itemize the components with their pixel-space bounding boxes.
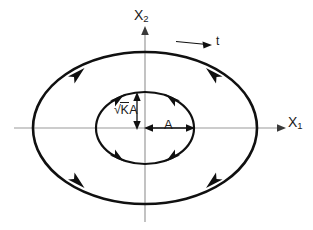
flow-arrow-inner-upper-right: [166, 95, 180, 107]
x1-axis-label: X1: [288, 115, 303, 131]
x1-axis-label-text: X: [288, 114, 297, 130]
flow-arrow-inner-lower-left: [110, 150, 124, 162]
velocity-amplitude-label: √KA: [113, 104, 138, 117]
radical-group: √K: [113, 104, 129, 117]
time-direction-arrow: [176, 42, 212, 49]
velocity-amplitude-trailing: A: [129, 103, 137, 117]
x2-axis-label: X2: [134, 8, 149, 24]
radicand: K: [120, 102, 129, 117]
x2-axis-label-subscript: 2: [143, 13, 148, 24]
x2-axis: [141, 26, 149, 222]
x1-axis-label-subscript: 1: [297, 120, 302, 131]
x2-axis-label-text: X: [134, 7, 143, 23]
flow-arrow-inner-lower-right: [166, 150, 180, 162]
phase-portrait-canvas: [0, 0, 313, 230]
phase-portrait-figure: X2 X1 t A √KA: [0, 0, 313, 230]
amplitude-label: A: [164, 118, 173, 131]
time-direction-label: t: [216, 35, 219, 47]
